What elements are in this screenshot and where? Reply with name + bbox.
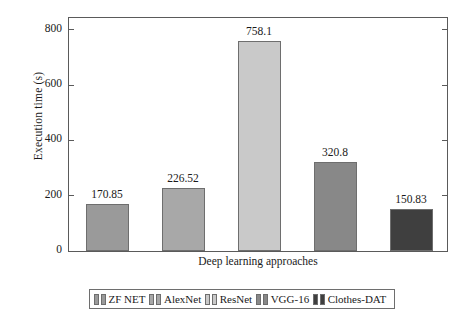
bar[interactable] <box>390 209 433 251</box>
y-tick-label: 400 <box>45 132 62 144</box>
legend-item-alexnet[interactable]: AlexNet <box>149 293 205 305</box>
y-tick-label: 0 <box>56 243 62 255</box>
bar-value-label: 150.83 <box>395 193 427 205</box>
bar-group-zf-net[interactable]: 170.85 <box>86 18 129 251</box>
y-tick-label: 200 <box>45 188 62 200</box>
bar-value-label: 170.85 <box>91 188 123 200</box>
y-tick-label: 600 <box>45 77 62 89</box>
legend-label: ResNet <box>220 293 252 305</box>
bar[interactable] <box>238 41 281 251</box>
legend-swatch-icon <box>313 294 318 305</box>
legend-swatch-icon <box>94 294 99 305</box>
legend-swatch-icon <box>149 294 154 305</box>
legend-item-vgg-16[interactable]: VGG-16 <box>256 293 313 305</box>
legend-swatch-icon <box>156 294 161 305</box>
bar[interactable] <box>86 204 129 251</box>
x-axis-title: Deep learning approaches <box>68 255 448 267</box>
y-tick-label: 800 <box>45 22 62 34</box>
bar[interactable] <box>162 188 205 251</box>
bar-group-resnet[interactable]: 758.1 <box>238 18 281 251</box>
bar-value-label: 758.1 <box>246 25 272 37</box>
bar-chart-figure: Execution time (s) 0200400600800 170.852… <box>0 0 470 331</box>
legend-label: Clothes-DAT <box>328 293 387 305</box>
legend-item-clothes-dat[interactable]: Clothes-DAT <box>313 293 390 305</box>
legend-swatch-icon <box>212 294 217 305</box>
legend-swatch-icon <box>263 294 268 305</box>
chart-legend: ZF NETAlexNetResNetVGG-16Clothes-DAT <box>89 289 395 309</box>
legend-label: VGG-16 <box>271 293 310 305</box>
bar-group-clothes-dat[interactable]: 150.83 <box>390 18 433 251</box>
bar-group-alexnet[interactable]: 226.52 <box>162 18 205 251</box>
legend-swatch-icon <box>205 294 210 305</box>
bar-value-label: 320.8 <box>322 146 348 158</box>
bar-value-label: 226.52 <box>167 172 199 184</box>
legend-swatch-icon <box>101 294 106 305</box>
legend-label: ZF NET <box>109 293 146 305</box>
legend-swatch-icon <box>320 294 325 305</box>
legend-label: AlexNet <box>164 293 201 305</box>
plot-area: 0200400600800 170.85226.52758.1320.8150.… <box>68 17 448 252</box>
legend-item-resnet[interactable]: ResNet <box>205 293 256 305</box>
y-axis-title: Execution time (s) <box>32 16 44 216</box>
bar[interactable] <box>314 162 357 251</box>
legend-swatch-icon <box>256 294 261 305</box>
bar-series: 170.85226.52758.1320.8150.83 <box>69 18 447 251</box>
bar-group-vgg-16[interactable]: 320.8 <box>314 18 357 251</box>
legend-item-zf-net[interactable]: ZF NET <box>94 293 149 305</box>
